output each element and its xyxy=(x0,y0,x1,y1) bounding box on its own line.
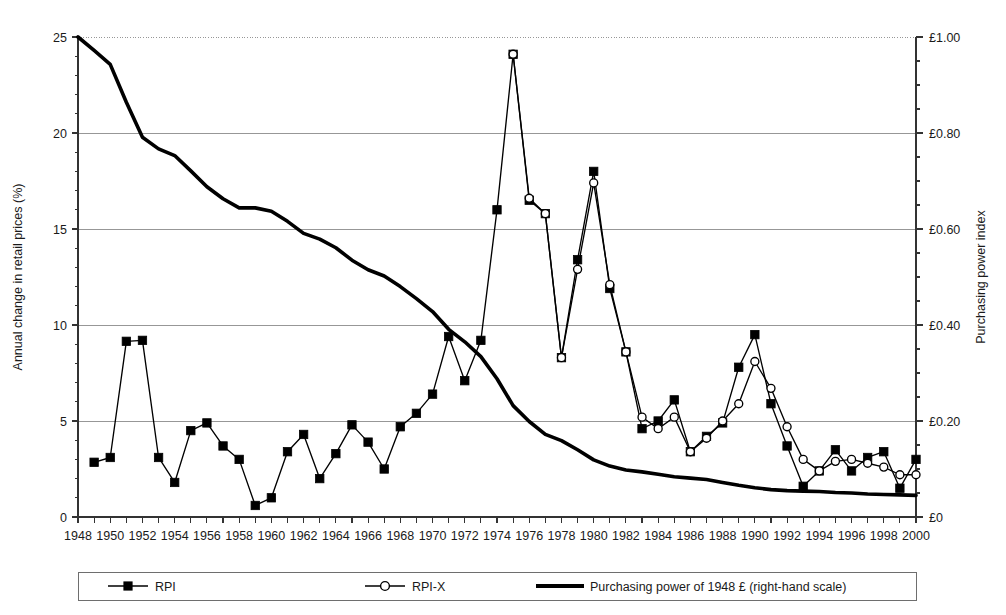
series-markers-rpi xyxy=(670,396,678,404)
x-tick-label: 1948 xyxy=(64,529,92,543)
series-markers-rpi xyxy=(122,337,130,345)
y-tick-label-left: 10 xyxy=(53,319,67,333)
series-markers-rpi xyxy=(412,409,420,417)
series-markers-rpi-x xyxy=(622,348,630,356)
legend-label-rpi: RPI xyxy=(155,580,176,594)
series-markers-rpi xyxy=(735,363,743,371)
series-markers-rpi xyxy=(396,423,404,431)
series-markers-rpi xyxy=(428,390,436,398)
x-tick-label: 1956 xyxy=(193,529,221,543)
series-markers-rpi-x xyxy=(880,463,888,471)
series-markers-rpi xyxy=(880,448,888,456)
series-markers-rpi xyxy=(251,501,259,509)
series-markers-rpi xyxy=(219,442,227,450)
series-markers-rpi xyxy=(154,453,162,461)
series-markers-rpi-x xyxy=(831,457,839,465)
series-markers-rpi-x xyxy=(735,400,743,408)
x-tick-label: 1978 xyxy=(548,529,576,543)
series-markers-rpi-x xyxy=(574,265,582,273)
legend-marker-rpi-square xyxy=(123,581,132,590)
series-markers-rpi xyxy=(283,448,291,456)
x-tick-label: 1960 xyxy=(257,529,285,543)
series-markers-rpi-x xyxy=(799,455,807,463)
legend-label-rpi-x: RPI-X xyxy=(412,580,446,594)
series-markers-rpi xyxy=(364,438,372,446)
x-tick-label: 1970 xyxy=(419,529,447,543)
y-tick-label-right: £0.80 xyxy=(929,127,960,141)
x-tick-label: 1950 xyxy=(96,529,124,543)
series-markers-rpi xyxy=(267,494,275,502)
series-markers-rpi-x xyxy=(670,413,678,421)
series-markers-rpi xyxy=(444,332,452,340)
series-markers-rpi xyxy=(896,484,904,492)
y-tick-label-right: £1.00 xyxy=(929,31,960,45)
series-markers-rpi xyxy=(170,478,178,486)
x-tick-label: 1982 xyxy=(612,529,640,543)
series-markers-rpi-x xyxy=(525,194,533,202)
series-markers-rpi xyxy=(380,465,388,473)
x-tick-label: 1964 xyxy=(322,529,350,543)
series-markers-rpi-x xyxy=(896,471,904,479)
series-markers-rpi xyxy=(847,467,855,475)
x-tick-label: 1972 xyxy=(451,529,479,543)
series-markers-rpi xyxy=(751,330,759,338)
y-tick-label-right: £0.60 xyxy=(929,223,960,237)
series-markers-rpi xyxy=(203,419,211,427)
series-markers-rpi xyxy=(138,336,146,344)
series-markers-rpi xyxy=(332,449,340,457)
series-markers-rpi-x xyxy=(606,281,614,289)
chart-background xyxy=(0,0,1006,615)
retail-prices-chart: 0510152025£0£0.20£0.40£0.60£0.80£1.00194… xyxy=(0,0,1006,615)
x-tick-label: 1994 xyxy=(805,529,833,543)
series-markers-rpi xyxy=(187,426,195,434)
series-markers-rpi xyxy=(912,455,920,463)
legend-label-purchasing-power: Purchasing power of 1948 £ (right-hand s… xyxy=(590,580,846,594)
series-markers-rpi xyxy=(573,256,581,264)
series-markers-rpi-x xyxy=(864,459,872,467)
x-tick-label: 1958 xyxy=(225,529,253,543)
series-markers-rpi xyxy=(106,453,114,461)
x-tick-label: 2000 xyxy=(902,529,930,543)
y-tick-label-right: £0.40 xyxy=(929,319,960,333)
series-markers-rpi-x xyxy=(719,417,727,425)
y-tick-label-left: 5 xyxy=(60,415,67,429)
series-markers-rpi-x xyxy=(848,455,856,463)
x-tick-label: 1980 xyxy=(580,529,608,543)
series-markers-rpi xyxy=(316,474,324,482)
x-tick-label: 1974 xyxy=(483,529,511,543)
x-tick-label: 1992 xyxy=(773,529,801,543)
series-markers-rpi xyxy=(799,482,807,490)
series-markers-rpi-x xyxy=(703,434,711,442)
series-markers-rpi-x xyxy=(912,471,920,479)
x-tick-label: 1962 xyxy=(290,529,318,543)
x-tick-label: 1986 xyxy=(676,529,704,543)
x-tick-label: 1966 xyxy=(354,529,382,543)
y-axis-title-left: Annual change in retail prices (%) xyxy=(11,184,25,371)
x-tick-label: 1952 xyxy=(129,529,157,543)
chart-container: 0510152025£0£0.20£0.40£0.60£0.80£1.00194… xyxy=(0,0,1006,615)
series-markers-rpi xyxy=(638,424,646,432)
series-markers-rpi-x xyxy=(590,179,598,187)
x-tick-label: 1984 xyxy=(644,529,672,543)
series-markers-rpi xyxy=(461,376,469,384)
x-tick-label: 1988 xyxy=(709,529,737,543)
series-markers-rpi-x xyxy=(686,448,694,456)
series-markers-rpi xyxy=(90,458,98,466)
series-markers-rpi-x xyxy=(541,210,549,218)
x-tick-label: 1998 xyxy=(870,529,898,543)
series-markers-rpi xyxy=(767,400,775,408)
series-markers-rpi-x xyxy=(751,357,759,365)
series-markers-rpi xyxy=(589,167,597,175)
x-tick-label: 1968 xyxy=(386,529,414,543)
y-axis-title-right: Purchasing power index xyxy=(974,210,988,344)
y-tick-label-left: 25 xyxy=(53,31,67,45)
series-markers-rpi xyxy=(831,446,839,454)
x-tick-label: 1976 xyxy=(515,529,543,543)
legend-marker-rpi-x-circle xyxy=(381,582,390,591)
series-markers-rpi xyxy=(783,442,791,450)
y-tick-label-left: 0 xyxy=(60,511,67,525)
series-markers-rpi xyxy=(654,417,662,425)
x-tick-label: 1990 xyxy=(741,529,769,543)
x-tick-label: 1954 xyxy=(161,529,189,543)
y-tick-label-left: 15 xyxy=(53,223,67,237)
